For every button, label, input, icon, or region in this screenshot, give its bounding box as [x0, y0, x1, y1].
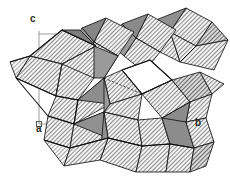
polyhedron-face [136, 144, 170, 172]
axis-label-a: a [36, 124, 42, 134]
crystal-structure-figure: c a b [0, 0, 230, 183]
axis-label-c: c [30, 14, 36, 24]
axis-label-b: b [195, 118, 201, 128]
polyhedron-face [166, 144, 194, 172]
crystal-structure-drawing [0, 0, 230, 183]
